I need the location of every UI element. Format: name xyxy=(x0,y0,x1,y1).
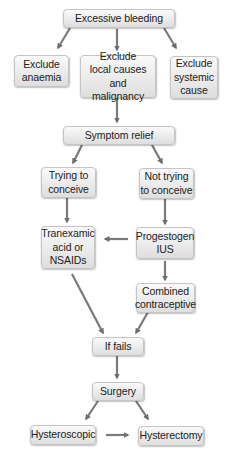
node-exclude-systemic-cause: Exclude systemic cause xyxy=(170,56,218,99)
node-exclude-anaemia: Exclude anaemia xyxy=(14,55,69,87)
node-tranexamic-acid-nsaids: Tranexamic acid or NSAIDs xyxy=(41,226,95,269)
node-trying-to-conceive: Trying to conceive xyxy=(41,167,96,198)
node-excessive-bleeding: Excessive bleeding xyxy=(63,9,175,28)
arrow-symptom-to-trying xyxy=(73,145,82,163)
arrow-surgery-to-hysteroscopic xyxy=(86,401,98,419)
node-progestogen-ius: Progestogen IUS xyxy=(136,227,194,259)
node-exclude-local-causes: Exclude local causes and malignancy xyxy=(80,55,156,98)
arrow-surgery-to-hysterectomy xyxy=(136,401,148,419)
node-surgery: Surgery xyxy=(92,382,144,401)
arrow-combined-to-iffails xyxy=(136,312,148,333)
arrow-symptom-to-nottrying xyxy=(152,145,162,163)
node-combined-contraceptive: Combined contraceptive xyxy=(136,283,195,313)
node-hysteroscopic: Hysteroscopic xyxy=(30,425,96,445)
node-if-fails: If fails xyxy=(92,337,144,356)
node-not-trying-to-conceive: Not trying to conceive xyxy=(139,168,194,199)
arrow-bleeding-to-systemic xyxy=(164,28,176,48)
arrow-tranexamic-to-iffails xyxy=(72,274,103,333)
node-symptom-relief: Symptom relief xyxy=(63,126,175,145)
arrow-bleeding-to-anaemia xyxy=(58,28,70,48)
node-hysterectomy: Hysterectomy xyxy=(138,426,204,446)
